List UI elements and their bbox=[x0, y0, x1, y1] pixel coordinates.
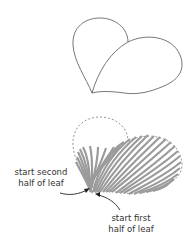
stitches-first-half bbox=[93, 135, 181, 194]
label-second-line2: half of leaf bbox=[14, 178, 68, 189]
label-start-second-half: start second half of leaf bbox=[14, 167, 68, 189]
label-first-line1: start first bbox=[104, 213, 158, 224]
bottom-leaf bbox=[73, 117, 182, 194]
arrow-first-half bbox=[98, 195, 120, 210]
arrowhead-second-half bbox=[84, 188, 90, 193]
arrow-second-half bbox=[60, 190, 87, 194]
leaf-diagram bbox=[0, 0, 192, 246]
top-leaf-outline bbox=[73, 18, 182, 94]
label-first-line2: half of leaf bbox=[104, 224, 158, 235]
label-start-first-half: start first half of leaf bbox=[104, 213, 158, 235]
arrowhead-first-half bbox=[95, 192, 100, 197]
label-second-line1: start second bbox=[14, 167, 68, 178]
